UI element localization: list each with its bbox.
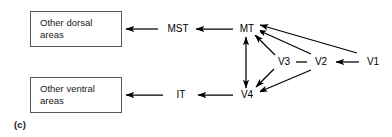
node-other-dorsal-areas-label: Other dorsal areas [40,17,92,41]
node-mst: MST [160,23,196,35]
node-other-dorsal-areas: Other dorsal areas [30,11,122,47]
node-v1: V1 [361,56,385,68]
edge-v2-to-mt [258,30,311,54]
panel-label: (c) [14,119,26,130]
edge-v3-to-mt [255,35,275,55]
node-it: IT [166,89,196,101]
node-v3: V3 [272,56,296,68]
edge-v2-to-v4 [259,70,311,92]
figure-panel-c: Other dorsal areas Other ventral areas M… [0,0,392,137]
node-v4: V4 [234,89,260,101]
node-mt: MT [234,23,260,35]
node-other-ventral-areas: Other ventral areas [30,77,122,113]
edge-v3-to-v4 [256,69,274,87]
edge-v1-to-mt [260,25,357,53]
node-v2: V2 [309,56,333,68]
node-other-ventral-areas-label: Other ventral areas [40,83,95,107]
